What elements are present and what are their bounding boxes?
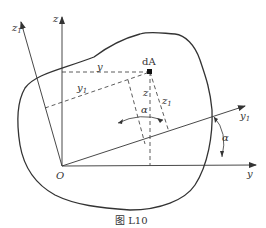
label-alpha-inner: α bbox=[141, 104, 148, 115]
outer-alpha-arrowhead-bottom bbox=[220, 151, 224, 157]
inner-alpha-arc bbox=[118, 117, 163, 123]
diagram-canvas: z z1 y y1 dA z z1 α α y1 y O 图 L10 bbox=[0, 0, 266, 228]
label-y-top: y bbox=[96, 61, 103, 72]
label-dA: dA bbox=[142, 56, 156, 67]
outer-alpha-arrowhead-top bbox=[214, 117, 218, 123]
z1-axis bbox=[21, 22, 62, 166]
label-z-inner: z bbox=[142, 87, 149, 98]
region-boundary bbox=[18, 32, 212, 210]
label-y1-axis: y1 bbox=[239, 110, 250, 123]
label-y1-dashed: y1 bbox=[76, 82, 87, 95]
label-origin: O bbox=[56, 170, 64, 181]
label-z1: z1 bbox=[11, 22, 22, 35]
label-z: z bbox=[52, 13, 59, 24]
label-z1-inner: z1 bbox=[161, 95, 172, 108]
y1-axis bbox=[62, 106, 245, 166]
label-alpha-outer: α bbox=[222, 132, 229, 143]
y-axis bbox=[62, 165, 256, 166]
area-element-dA bbox=[147, 69, 152, 74]
figure-caption: 图 L10 bbox=[115, 215, 148, 226]
label-y-axis: y bbox=[246, 168, 253, 179]
inner-alpha-arrowhead-left bbox=[118, 119, 123, 124]
